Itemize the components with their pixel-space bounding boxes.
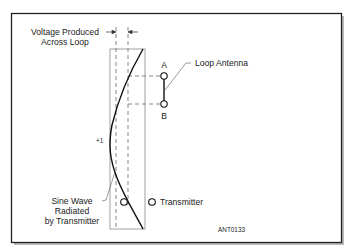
voltage-label-line1: Voltage Produced: [31, 27, 99, 37]
transmitter-wave-point-icon: [121, 199, 128, 206]
loop-antenna-label: Loop Antenna: [195, 58, 248, 68]
sine-label-line1: Sine Wave: [51, 196, 92, 206]
point-a-icon: [161, 73, 167, 79]
point-b-icon: [161, 101, 167, 107]
sine-label-line2: Radiated: [55, 206, 90, 216]
peak-label: +1: [96, 137, 104, 144]
transmitter-label: Transmitter: [160, 197, 203, 207]
voltage-label-line2: Across Loop: [41, 37, 89, 47]
transmitter-icon: [149, 199, 156, 206]
sine-label-line3: by Transmitter: [45, 216, 100, 226]
antenna-diagram: Voltage Produced Across Loop A B Loop An…: [0, 0, 349, 251]
point-a-label: A: [161, 60, 167, 70]
figure-id: ANT0133: [218, 226, 245, 233]
point-b-label: B: [161, 111, 167, 121]
